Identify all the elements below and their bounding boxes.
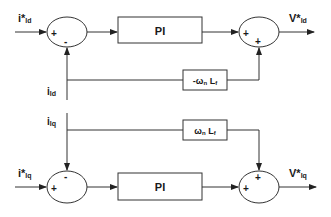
q-decoupling-to-sum2-arrow [227, 130, 259, 170]
d-input-label: i*ld [18, 12, 32, 24]
q-output-label: V*lq [289, 167, 307, 180]
q-axis-loop: ilq ωn Lf i*lq + - PI + + V*lq [15, 113, 316, 203]
current-control-block-diagram: i*ld + - PI + + V*ld ild -ωn Lf ilq ωn L… [0, 0, 331, 217]
q-pi-label: PI [155, 181, 165, 193]
q-feedback-label: ilq [47, 116, 56, 128]
d-sum1-plus-sign: + [51, 28, 57, 39]
d-sum1-minus-sign: - [64, 36, 67, 47]
q-sum1-minus-sign: - [64, 171, 67, 182]
d-sum2-plus-bottom: + [255, 36, 261, 47]
d-output-label: V*ld [289, 12, 307, 24]
d-decoupling-label: -ωn Lf [193, 76, 218, 86]
d-decoupling-to-sum2-arrow [227, 48, 259, 80]
q-sum2-plus-top: + [255, 172, 261, 183]
d-feedback-label: ild [47, 86, 56, 97]
q-sum2-plus-left: + [243, 183, 249, 194]
q-input-label: i*lq [18, 167, 32, 180]
d-sum2-plus-left: + [243, 28, 249, 39]
q-sum1-plus-sign: + [51, 183, 57, 194]
d-pi-label: PI [155, 25, 165, 37]
d-axis-loop: i*ld + - PI + + V*ld ild -ωn Lf [15, 12, 314, 100]
q-decoupling-label: ωn Lf [194, 126, 216, 136]
